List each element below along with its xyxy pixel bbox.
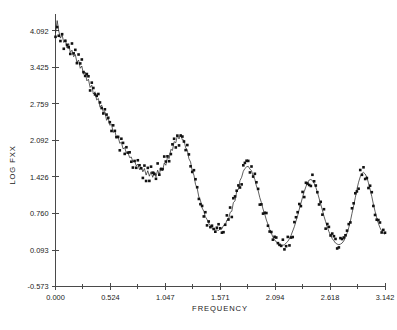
data-point-marker <box>211 224 214 227</box>
data-point-marker <box>280 245 283 248</box>
data-point-marker <box>142 177 145 180</box>
data-point-marker <box>194 178 197 181</box>
data-point-marker <box>229 206 232 209</box>
y-axis-tick-labels: -0.5730.0930.7601.4262.0922.7593.4254.09… <box>28 27 49 292</box>
data-point-marker <box>176 134 179 137</box>
data-point-marker <box>153 173 156 176</box>
data-point-marker <box>319 201 322 204</box>
data-point-marker <box>120 137 123 140</box>
data-point-marker <box>219 227 222 230</box>
data-point-marker <box>114 130 117 133</box>
data-point-marker <box>352 202 355 205</box>
x-tick-label: 1.571 <box>211 293 230 302</box>
data-point-marker <box>372 205 375 208</box>
data-point-marker <box>165 160 168 163</box>
data-point-marker <box>265 212 268 215</box>
data-point-marker <box>135 166 138 169</box>
data-point-marker <box>109 121 112 124</box>
data-point-marker <box>293 221 296 224</box>
x-axis-title: FREQUENCY <box>192 304 248 313</box>
data-point-marker <box>138 164 141 167</box>
data-point-marker <box>66 44 69 47</box>
data-point-marker <box>87 75 90 78</box>
data-point-marker <box>202 215 205 218</box>
data-point-marker <box>310 185 313 188</box>
data-point-marker <box>254 173 257 176</box>
data-point-marker <box>295 216 298 219</box>
data-point-marker <box>344 234 347 237</box>
data-point-marker <box>122 142 125 145</box>
data-point-marker <box>362 166 365 169</box>
data-point-marker <box>143 164 146 167</box>
data-point-marker <box>155 177 158 180</box>
data-point-marker <box>188 153 191 156</box>
data-point-marker <box>178 144 181 147</box>
data-point-marker <box>346 229 349 232</box>
data-point-marker <box>240 183 243 186</box>
chart-canvas: -0.5730.0930.7601.4262.0922.7593.4254.09… <box>0 0 397 330</box>
data-point-marker <box>318 203 321 206</box>
data-point-marker <box>216 226 219 229</box>
data-point-marker <box>100 107 103 110</box>
data-point-marker <box>217 223 220 226</box>
data-point-marker <box>201 205 204 208</box>
spectral-density-chart: -0.5730.0930.7601.4262.0922.7593.4254.09… <box>0 0 397 330</box>
data-point-marker <box>230 216 233 219</box>
data-point-marker <box>79 62 82 65</box>
data-point-marker <box>267 224 270 227</box>
data-point-marker <box>342 236 345 239</box>
data-point-marker <box>260 203 263 206</box>
data-point-marker <box>334 238 337 241</box>
data-point-marker <box>171 143 174 146</box>
data-point-marker <box>286 236 289 239</box>
data-point-marker <box>133 160 136 163</box>
x-axis: 0.0000.5241.0471.5712.0942.6183.142 FREQ… <box>46 283 394 313</box>
data-point-marker <box>380 231 383 234</box>
data-point-marker <box>357 187 360 190</box>
x-tick-label: 2.094 <box>266 293 285 302</box>
data-point-marker <box>377 219 380 222</box>
y-axis: -0.5730.0930.7601.4262.0922.7593.4254.09… <box>8 14 59 291</box>
data-point-marker <box>156 162 159 165</box>
data-point-marker <box>189 165 192 168</box>
data-point-marker <box>59 40 62 43</box>
data-point-marker <box>125 146 128 149</box>
data-point-marker <box>351 207 354 210</box>
data-point-marker <box>379 221 382 224</box>
data-point-marker <box>234 195 237 198</box>
data-point-marker <box>97 93 100 96</box>
data-point-marker <box>333 235 336 238</box>
data-point-marker <box>359 169 362 172</box>
data-point-marker <box>239 186 242 189</box>
data-point-marker <box>146 167 149 170</box>
data-point-marker <box>270 231 273 234</box>
y-tick-label: 0.093 <box>30 246 49 255</box>
data-point-marker <box>77 53 80 56</box>
data-point-marker <box>301 191 304 194</box>
data-point-marker <box>326 223 329 226</box>
data-point-marker <box>204 211 207 214</box>
data-point-marker <box>361 174 364 177</box>
x-axis-tick-labels: 0.0000.5241.0471.5712.0942.6183.142 <box>46 293 394 302</box>
data-point-marker <box>291 236 294 239</box>
data-point-marker <box>331 232 334 235</box>
data-point-marker <box>369 184 372 187</box>
data-point-marker <box>252 175 255 178</box>
data-point-marker <box>283 248 286 251</box>
data-point-marker <box>102 112 105 115</box>
data-point-marker <box>158 173 161 176</box>
data-point-marker <box>54 36 57 39</box>
data-point-marker <box>105 113 108 116</box>
y-tick-label: -0.573 <box>28 282 49 291</box>
data-point-marker <box>69 53 72 56</box>
data-point-marker <box>56 26 59 29</box>
data-point-marker <box>296 211 299 214</box>
x-tick-label: 3.142 <box>376 293 395 302</box>
data-point-marker <box>62 47 65 50</box>
data-point-marker <box>207 220 210 223</box>
data-point-marker <box>184 149 187 152</box>
data-point-marker <box>86 73 89 76</box>
y-tick-label: 2.092 <box>30 136 49 145</box>
data-point-marker <box>323 208 326 211</box>
data-point-marker <box>328 226 331 229</box>
